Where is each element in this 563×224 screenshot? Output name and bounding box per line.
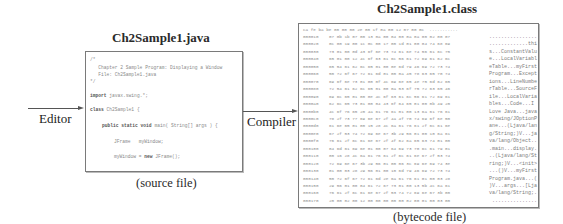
hex-row-ascii: bles...Code...I xyxy=(489,102,537,107)
code-line-import: import javax.swing.*; xyxy=(90,94,148,99)
hex-row-address: 000100 xyxy=(303,147,318,151)
hex-row-bytes: 65 01 00 12 4c 6f 63 61 6c 56 61 72 69 6… xyxy=(329,57,450,61)
editor-label: Editor xyxy=(39,111,72,127)
hex-row-bytes: 73 01 00 0d 43 6f 6e 73 74 61 6e 74 56 6… xyxy=(329,50,450,54)
hex-row-bytes: 50 72 6f 67 72 61 6d 2e 6a 61 76 61 01 0… xyxy=(329,177,450,181)
hex-row-bytes: 00 16 28 4c 6a 61 76 61 2f 6c 61 6e 67 2… xyxy=(329,154,450,158)
compiler-arrow-line xyxy=(243,111,293,112)
hex-row-bytes: 76 61 2f 6c 61 6e 67 2f 4f 62 6a 65 63 7… xyxy=(329,139,450,143)
class-name: Ch2Sample1 { xyxy=(107,107,140,112)
hex-row-ascii: .............thi xyxy=(489,42,537,47)
hex-row-bytes: 62 6c 65 73 01 00 04 43 6f 64 65 01 00 0… xyxy=(329,102,450,106)
hex-first-row: ca fe ba be 00 00 00 2e 00 1f 0a 00 12 0… xyxy=(303,28,458,32)
source-file-caption: (source file) xyxy=(136,176,197,191)
keyword-new: new xyxy=(144,154,152,159)
hex-row-address: 000150 xyxy=(303,184,318,188)
hex-row-ascii: rTable...SourceF xyxy=(489,87,537,92)
hex-row-ascii: ..(Ljava/lang/St xyxy=(489,154,537,159)
hex-row-address: 0000d0 xyxy=(303,124,318,128)
code-line-comment-close: */ xyxy=(90,80,96,85)
hex-row-ascii: ane...(Ljava/lan xyxy=(489,124,537,129)
hex-row-bytes: 01 00 03 28 29 56 01 00 10 6d 79 46 69 7… xyxy=(329,169,450,173)
hex-row-ascii: )V...args...[Lja xyxy=(489,184,537,189)
keyword-import: import xyxy=(90,93,107,98)
hex-row-ascii: Love Java...java xyxy=(489,110,537,115)
hex-row-address: 000140 xyxy=(303,177,318,181)
hex-row-address: 000050 xyxy=(303,65,318,69)
code-line-comment-file: File: Ch2Sample1.java xyxy=(90,73,156,78)
hex-row-bytes: 20 00 02 00 12 00 00 00 00 00 02 00 01 0… xyxy=(329,199,450,203)
hex-row-address: 000090 xyxy=(303,95,318,99)
code-line-declaration: JFrame myWindow; xyxy=(114,140,164,145)
hex-row-bytes: 72 54 61 62 6c 65 01 00 0a 53 6f 75 72 6… xyxy=(329,87,450,91)
hex-row-ascii: ............... xyxy=(489,199,537,204)
hex-row-ascii: va/lang/String;. xyxy=(489,191,537,196)
editor-arrow-line xyxy=(28,108,79,109)
hex-row-address: 000020 xyxy=(303,42,318,46)
hex-row-address: 0000a0 xyxy=(303,102,318,106)
code-line-comment-chapter: Chapter 2 Sample Program: Displaying a W… xyxy=(90,66,222,71)
keyword-public-static-void: public static void xyxy=(102,123,152,128)
source-file-box: /* Chapter 2 Sample Program: Displaying … xyxy=(85,51,243,172)
bytecode-file-box: ca fe ba be 00 00 00 2e 00 1f 0a 00 12 0… xyxy=(298,23,539,208)
hex-row-address: 0000c0 xyxy=(303,117,318,121)
hex-row-bytes: 50 72 6f 67 72 61 6d 01 00 0a 45 78 63 6… xyxy=(329,72,450,76)
hex-row-ascii: ile...LocalVaria xyxy=(489,95,537,100)
hex-row-ascii: Program...Except xyxy=(489,72,537,77)
hex-row-bytes: 78 2f 73 77 69 6e 67 2f 4a 4f 70 74 69 6… xyxy=(329,117,450,121)
hex-row-bytes: 69 6f 6e 73 01 00 0f 4c 69 6e 65 4e 75 6… xyxy=(329,80,450,84)
hex-row-ascii: e...LocalVariabl xyxy=(489,57,537,62)
bytecode-file-title: Ch2Sample1.class xyxy=(377,1,477,17)
hex-row-address: 000060 xyxy=(303,72,318,76)
main-signature: main( String[] args ) { xyxy=(154,123,217,128)
hex-row-ascii: g/String;)V...ja xyxy=(489,132,537,137)
hex-row-bytes: 29 56 01 00 04 61 72 67 73 01 00 13 5b 4… xyxy=(329,184,450,188)
hex-row-ascii: x/swing/JOptionP xyxy=(489,117,537,122)
source-file-title: Ch2Sample1.java xyxy=(112,30,210,46)
hex-row-bytes: 07 0b 1b 07 00 13 0a 00 04 00 0a 0a 00 0… xyxy=(329,35,450,39)
hex-row-ascii: Program.java...( xyxy=(489,177,537,182)
hex-row-address: 000080 xyxy=(303,87,318,91)
hex-row-ascii: .main...display. xyxy=(489,147,537,152)
hex-row-address: 0000e0 xyxy=(303,132,318,136)
hex-row-bytes: 0c 00 19 00 1c 0c 00 17 00 1d 01 00 04 7… xyxy=(329,42,450,46)
hex-row-ascii: ...()V...myFirst xyxy=(489,169,537,174)
hex-row-bytes: 61 6e 65 01 00 15 28 4c 6a 61 76 61 2f 6… xyxy=(329,124,450,128)
hex-row-bytes: 65 54 61 62 6c 65 01 00 0e 6d 79 46 69 7… xyxy=(329,65,450,69)
hex-row-bytes: 4c 6f 76 65 20 4a 61 76 61 01 00 13 6a 6… xyxy=(329,110,450,114)
hex-row-address: 000120 xyxy=(303,162,318,166)
hex-row-bytes: 72 69 6e 67 3b 29 56 01 00 06 3c 69 6e 6… xyxy=(329,162,450,166)
bytecode-file-caption: (bytecode file) xyxy=(393,210,466,224)
code-line-assignment: myWindow = new JFrame(); xyxy=(114,155,180,160)
hex-row-address: 000160 xyxy=(303,191,318,195)
code-line-class: class Ch2Sample1 { xyxy=(90,108,140,113)
import-target: javax.swing.*; xyxy=(109,93,148,98)
hex-row-bytes: 04 6d 61 69 6e 01 00 07 64 69 73 70 6c 6… xyxy=(329,147,450,151)
hex-row-bytes: 76 61 2f 6c 61 6e 67 2f 53 74 72 69 6e 6… xyxy=(329,191,450,195)
code-line-main: public static void main( String[] args )… xyxy=(102,124,218,129)
hex-row-ascii: ring;)V...<init> xyxy=(489,162,537,167)
compiler-label: Compiler xyxy=(247,114,296,130)
hex-row-address: 000040 xyxy=(303,57,318,61)
hex-row-address: 000030 xyxy=(303,50,318,54)
hex-row-address: 000010 xyxy=(303,35,318,39)
hex-row-bytes: 69 6c 65 01 00 0e 4c 6f 63 61 6c 56 61 7… xyxy=(329,95,450,99)
hex-row-ascii: ions...LineNumbe xyxy=(489,80,537,85)
hex-row-address: 000130 xyxy=(303,169,318,173)
code-line-comment-open: /* xyxy=(90,58,96,63)
hex-row-address: 000170 xyxy=(303,199,318,203)
hex-row-ascii: s...ConstantValu xyxy=(489,50,537,55)
hex-row-address: 000070 xyxy=(303,80,318,84)
keyword-class: class xyxy=(90,107,104,112)
hex-row-address: 000110 xyxy=(303,154,318,158)
hex-row-address: 0000f0 xyxy=(303,139,318,143)
hex-row-bytes: 67 2f 53 74 72 69 6e 67 3b 29 56 01 00 1… xyxy=(329,132,450,136)
hex-row-address: 0000b0 xyxy=(303,110,318,114)
hex-row-ascii: ................ xyxy=(489,35,537,40)
editor-arrowhead-icon xyxy=(78,106,84,110)
hex-row-ascii: eTable...myFirst xyxy=(489,65,537,70)
hex-row-ascii: va/lang/Object.. xyxy=(489,139,537,144)
